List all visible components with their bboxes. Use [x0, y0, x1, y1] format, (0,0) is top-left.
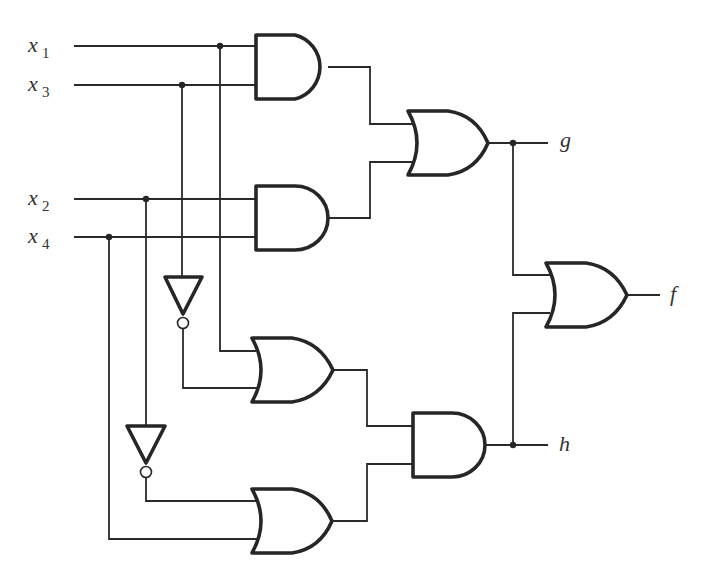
output-label-f: f — [670, 281, 679, 306]
svg-text:4: 4 — [42, 236, 50, 252]
or-gate-2 — [252, 338, 333, 402]
wire-h-to-or4 — [513, 313, 550, 445]
svg-text:x: x — [27, 71, 38, 96]
svg-text:3: 3 — [42, 84, 50, 100]
wire-not2-out — [146, 478, 258, 501]
input-label-x4: x 4 — [27, 223, 50, 252]
or-gate-3 — [252, 489, 332, 553]
wire-g-to-or4 — [513, 143, 550, 275]
or-gate-4 — [546, 263, 627, 327]
junction-h — [510, 442, 516, 448]
wire-and2-or1 — [328, 162, 412, 218]
input-label-x1: x 1 — [27, 32, 50, 61]
and-gate-1 — [256, 35, 320, 99]
junction-x2 — [143, 196, 149, 202]
output-label-h: h — [559, 431, 570, 456]
not-gate-1-bubble — [178, 318, 189, 329]
input-label-x3: x 3 — [27, 71, 50, 100]
not-gate-2 — [127, 426, 165, 463]
or-gate-1 — [408, 111, 488, 175]
wire-and1-or1 — [328, 67, 412, 124]
junction-x1 — [217, 43, 223, 49]
svg-text:x: x — [27, 223, 38, 248]
svg-text:2: 2 — [42, 198, 50, 214]
wire-or3-and3 — [332, 464, 413, 521]
junction-x4 — [106, 234, 112, 240]
output-label-g: g — [560, 127, 571, 152]
svg-text:x: x — [27, 32, 38, 57]
wire-or2-and3 — [333, 370, 413, 426]
junction-x3 — [179, 82, 185, 88]
not-gate-1 — [165, 277, 202, 314]
svg-text:x: x — [27, 185, 38, 210]
svg-text:1: 1 — [42, 45, 50, 61]
and-gate-2 — [256, 186, 328, 250]
not-gate-2-bubble — [141, 467, 152, 478]
input-label-x2: x 2 — [27, 185, 50, 214]
logic-circuit-diagram: x 1 x 3 x 2 x 4 — [0, 0, 720, 581]
junction-g — [510, 140, 516, 146]
and-gate-3 — [413, 413, 485, 477]
